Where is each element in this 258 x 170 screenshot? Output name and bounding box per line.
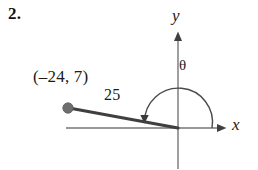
y-axis-label: y [172,7,180,24]
ray-length-label: 25 [104,87,120,103]
figure-container: 2. (–24, 7) 25 θ y x [0,0,258,170]
x-axis-label: x [232,116,240,133]
plotted-point-marker [63,103,73,113]
terminal-ray [69,108,178,128]
theta-angle-label: θ [179,58,186,73]
point-coordinates-label: (–24, 7) [33,68,88,85]
